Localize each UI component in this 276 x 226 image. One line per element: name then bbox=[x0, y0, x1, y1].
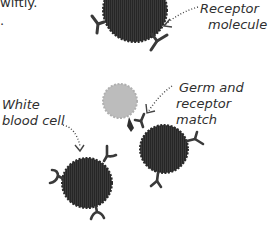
label-line: Receptor bbox=[200, 1, 267, 17]
germ-match-pointer-arrow bbox=[146, 86, 172, 113]
receptor-molecule-icon bbox=[92, 16, 104, 33]
receptor-molecule-label: Receptor molecule bbox=[200, 1, 267, 33]
label-line: receptor match bbox=[176, 96, 276, 128]
top-white-blood-cell bbox=[92, 0, 167, 50]
germ bbox=[103, 84, 137, 132]
label-line: Germ and bbox=[179, 80, 276, 96]
label-line: molecule bbox=[200, 17, 267, 33]
white-blood-cell-label: White blood cell bbox=[2, 97, 65, 129]
label-line: blood cell bbox=[2, 113, 65, 129]
receptor-molecule-icon bbox=[151, 34, 167, 50]
white-blood-cell bbox=[50, 146, 116, 219]
receptor-pointer-arrow bbox=[164, 7, 198, 27]
wbc-pointer-arrow bbox=[63, 125, 84, 151]
label-line: White bbox=[2, 97, 65, 113]
germ-receptor-match-label: Germ and receptor match bbox=[179, 80, 276, 128]
